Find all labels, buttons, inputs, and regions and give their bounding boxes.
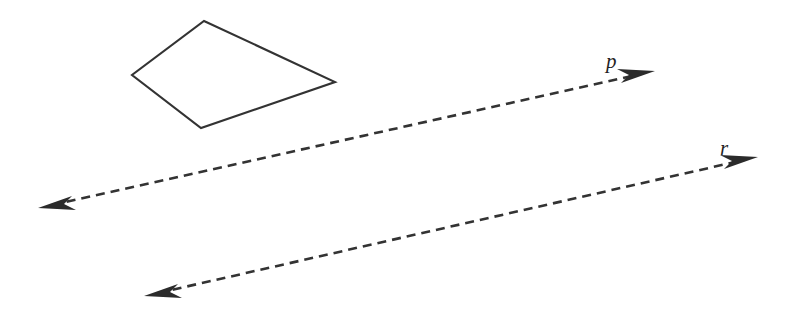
- line-r-label: r: [720, 136, 729, 160]
- diagram-canvas: p r: [0, 0, 792, 312]
- canvas-background: [0, 0, 792, 312]
- line-p-label: p: [604, 49, 617, 73]
- geometry-svg: p r: [0, 0, 792, 312]
